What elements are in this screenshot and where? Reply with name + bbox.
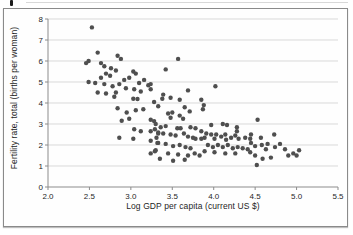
data-point bbox=[221, 145, 225, 149]
data-point bbox=[221, 122, 225, 126]
data-point bbox=[182, 131, 186, 135]
data-point bbox=[131, 97, 135, 101]
data-point bbox=[297, 148, 301, 152]
data-point bbox=[241, 146, 245, 150]
y-tick-label: 3 bbox=[39, 120, 44, 129]
data-point bbox=[132, 127, 136, 131]
data-point bbox=[186, 153, 190, 157]
data-point bbox=[199, 129, 203, 133]
data-point bbox=[183, 158, 187, 162]
data-point bbox=[211, 145, 215, 149]
cropped-text-artifact bbox=[10, 0, 13, 6]
data-point bbox=[249, 132, 253, 136]
data-point bbox=[186, 134, 190, 138]
data-point bbox=[152, 100, 156, 104]
data-point bbox=[214, 132, 218, 136]
data-point bbox=[164, 142, 168, 146]
data-point bbox=[160, 97, 164, 101]
data-point bbox=[264, 147, 268, 151]
data-point bbox=[96, 50, 100, 54]
data-point bbox=[141, 107, 145, 111]
data-point bbox=[294, 153, 298, 157]
data-point bbox=[90, 25, 94, 29]
data-point bbox=[181, 117, 185, 121]
page-crop-line bbox=[26, 2, 348, 3]
data-point bbox=[134, 71, 138, 75]
data-point bbox=[132, 87, 136, 91]
data-point bbox=[149, 129, 153, 133]
data-point bbox=[149, 139, 153, 143]
data-point bbox=[224, 138, 228, 142]
x-tick-label: 3.0 bbox=[125, 192, 137, 201]
data-point bbox=[102, 82, 106, 86]
data-point bbox=[117, 136, 121, 140]
data-point bbox=[139, 89, 143, 93]
data-point bbox=[178, 98, 182, 102]
data-point bbox=[235, 129, 239, 133]
data-point bbox=[255, 118, 259, 122]
data-point bbox=[124, 86, 128, 90]
data-point bbox=[286, 153, 290, 157]
data-point bbox=[233, 133, 237, 137]
data-point bbox=[125, 110, 129, 114]
data-point bbox=[153, 149, 157, 153]
data-point bbox=[142, 78, 146, 82]
y-tick-label: 8 bbox=[39, 15, 44, 24]
data-point bbox=[209, 123, 213, 127]
y-tick-label: 4 bbox=[39, 99, 44, 108]
data-point bbox=[283, 147, 287, 151]
data-point bbox=[149, 118, 153, 122]
data-point bbox=[120, 119, 124, 123]
data-point bbox=[127, 76, 131, 80]
x-tick-label: 5.0 bbox=[291, 192, 303, 201]
data-point bbox=[248, 137, 252, 141]
data-point bbox=[108, 74, 112, 78]
data-point bbox=[149, 87, 153, 91]
data-point bbox=[212, 150, 216, 154]
data-point bbox=[166, 151, 170, 155]
data-point bbox=[243, 136, 247, 140]
x-tick-label: 5.5 bbox=[332, 192, 344, 201]
data-point bbox=[153, 127, 157, 131]
data-point bbox=[154, 136, 158, 140]
data-point bbox=[178, 113, 182, 117]
data-point bbox=[199, 137, 203, 141]
data-point bbox=[122, 78, 126, 82]
data-point bbox=[164, 67, 168, 71]
data-point bbox=[112, 95, 116, 99]
data-point bbox=[236, 145, 240, 149]
data-point bbox=[99, 76, 103, 80]
data-point bbox=[188, 125, 192, 129]
data-point bbox=[193, 126, 197, 130]
data-point bbox=[127, 117, 131, 121]
data-point bbox=[166, 111, 170, 115]
data-point bbox=[223, 151, 227, 155]
scatter-plot: 0123456782.02.53.03.54.04.55.05.5 bbox=[4, 9, 347, 226]
data-point bbox=[229, 136, 233, 140]
data-point bbox=[249, 141, 253, 145]
data-point bbox=[202, 149, 206, 153]
data-point bbox=[156, 130, 160, 134]
data-point bbox=[226, 143, 230, 147]
data-point bbox=[149, 82, 153, 86]
data-point bbox=[272, 132, 276, 136]
y-tick-label: 2 bbox=[39, 141, 44, 150]
data-point bbox=[135, 97, 139, 101]
data-point bbox=[193, 137, 197, 141]
data-point bbox=[114, 68, 118, 72]
data-point bbox=[193, 151, 197, 155]
data-point bbox=[119, 57, 123, 61]
data-point bbox=[219, 134, 223, 138]
data-point bbox=[202, 103, 206, 107]
data-point bbox=[158, 157, 162, 161]
data-point bbox=[178, 126, 182, 130]
data-point bbox=[115, 106, 119, 110]
x-tick-label: 3.5 bbox=[167, 192, 179, 201]
data-point bbox=[134, 108, 138, 112]
data-point bbox=[233, 151, 237, 155]
data-point bbox=[278, 142, 282, 146]
y-tick-label: 1 bbox=[39, 162, 44, 171]
data-point bbox=[161, 131, 165, 135]
data-point bbox=[149, 151, 153, 155]
data-point bbox=[183, 145, 187, 149]
